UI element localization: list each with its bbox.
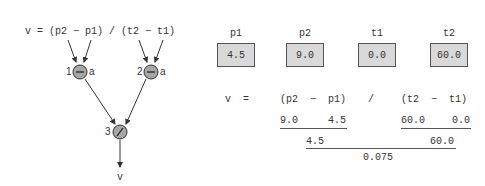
step2-denominator: 60.0 [430,136,454,147]
step1-num-underline [280,128,347,129]
node-2-annotation: a [160,66,166,77]
node-3-number: 3 [105,126,111,137]
node-1-subtract [73,65,87,79]
node-2-number: 2 [137,66,143,77]
node-2-subtract [144,65,158,79]
eq-divide: / [368,94,374,105]
node-3-divide [113,125,127,139]
node-1-annotation: a [89,66,95,77]
eq-lhs: v [225,94,231,105]
step1-den-underline [401,128,471,129]
step2-underline [306,148,456,149]
eq-numerator: (p2 − p1) [280,94,346,105]
step1-t1-value: 0.0 [452,115,470,126]
eq-denominator: (t2 − t1) [401,94,467,105]
var-label-p1: p1 [217,28,255,39]
step1-t2-value: 60.0 [401,115,425,126]
var-label-t1: t1 [358,28,396,39]
result-value: 0.075 [363,152,393,163]
eq-equals: = [243,94,249,105]
var-box-p1: 4.5 [217,43,255,67]
var-box-t2: 60.0 [430,43,468,67]
node-1-number: 1 [66,66,72,77]
var-label-p2: p2 [286,28,324,39]
step1-p2-value: 9.0 [280,115,298,126]
var-box-p2: 9.0 [286,43,324,67]
var-label-t2: t2 [430,28,468,39]
var-box-t1: 0.0 [358,43,396,67]
step2-numerator: 4.5 [306,136,324,147]
graph-output: v [117,172,123,183]
step1-p1-value: 4.5 [328,115,346,126]
